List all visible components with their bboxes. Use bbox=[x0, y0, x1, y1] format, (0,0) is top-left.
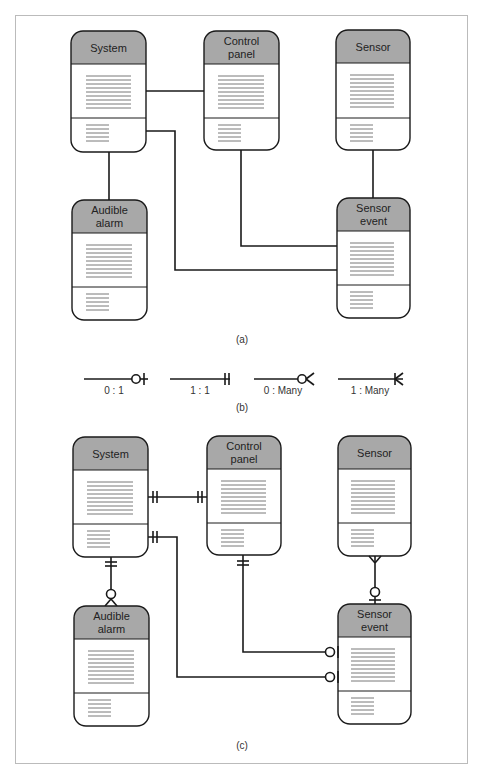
entity-label-line2: alarm bbox=[96, 217, 124, 229]
legend-label: 0 : 1 bbox=[104, 385, 124, 396]
entity-label-line2: panel bbox=[231, 453, 258, 465]
entity-label-line2: event bbox=[360, 215, 387, 227]
entity-label: System bbox=[92, 448, 129, 460]
entity-label-line1: Control bbox=[224, 35, 259, 47]
legend-label: 0 : Many bbox=[264, 385, 302, 396]
legend-label: 1 : 1 bbox=[190, 385, 210, 396]
entity-label-line1: Audible bbox=[93, 610, 130, 622]
entity-label-line2: alarm bbox=[98, 623, 126, 635]
entity-label-line2: panel bbox=[228, 48, 255, 60]
entity-label-line1: Sensor bbox=[356, 202, 391, 214]
entity-label-line2: event bbox=[361, 621, 388, 633]
entity-label: Sensor bbox=[356, 41, 391, 53]
entity-label-line1: Control bbox=[226, 440, 261, 452]
caption-c: (c) bbox=[236, 740, 248, 751]
caption-a: (a) bbox=[236, 334, 248, 345]
entity-label: System bbox=[90, 42, 127, 54]
figure-frame bbox=[16, 16, 468, 764]
erd-figure: System Control panel Sensor bbox=[0, 0, 481, 777]
caption-b: (b) bbox=[236, 402, 248, 413]
entity-label-line1: Sensor bbox=[357, 608, 392, 620]
entity-label-line1: Audible bbox=[91, 204, 128, 216]
legend-label: 1 : Many bbox=[351, 385, 389, 396]
entity-label: Sensor bbox=[357, 447, 392, 459]
